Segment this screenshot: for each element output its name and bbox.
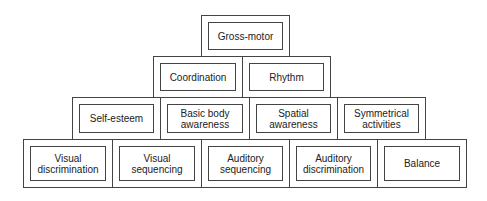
block-visual-sequencing: Visual sequencing xyxy=(112,139,202,188)
block-gross-motor: Gross-motor xyxy=(201,15,290,57)
block-label: Balance xyxy=(384,146,460,181)
block-auditory-sequencing: Auditory sequencing xyxy=(201,139,290,188)
block-balance: Balance xyxy=(377,139,467,188)
block-label: Gross-motor xyxy=(208,22,283,50)
block-label: Spatial awareness xyxy=(256,104,331,133)
block-label: Coordination xyxy=(160,63,236,91)
block-coordination: Coordination xyxy=(153,56,243,98)
block-basic-body-awareness: Basic body awareness xyxy=(160,97,250,140)
block-label: Auditory sequencing xyxy=(208,146,283,181)
block-label: Visual sequencing xyxy=(119,146,195,181)
block-label: Self-esteem xyxy=(79,104,154,133)
block-label: Rhythm xyxy=(249,63,324,91)
block-label: Auditory discrimination xyxy=(296,146,371,181)
block-auditory-discrimination: Auditory discrimination xyxy=(289,139,378,188)
block-symmetrical-activities: Symmetrical activities xyxy=(337,97,426,140)
block-spatial-awareness: Spatial awareness xyxy=(249,97,338,140)
block-label: Symmetrical activities xyxy=(344,104,419,133)
block-label: Basic body awareness xyxy=(167,104,243,133)
block-visual-discrimination: Visual discrimination xyxy=(23,139,113,188)
block-rhythm: Rhythm xyxy=(242,56,331,98)
block-label: Visual discrimination xyxy=(30,146,106,181)
block-self-esteem: Self-esteem xyxy=(72,97,161,140)
